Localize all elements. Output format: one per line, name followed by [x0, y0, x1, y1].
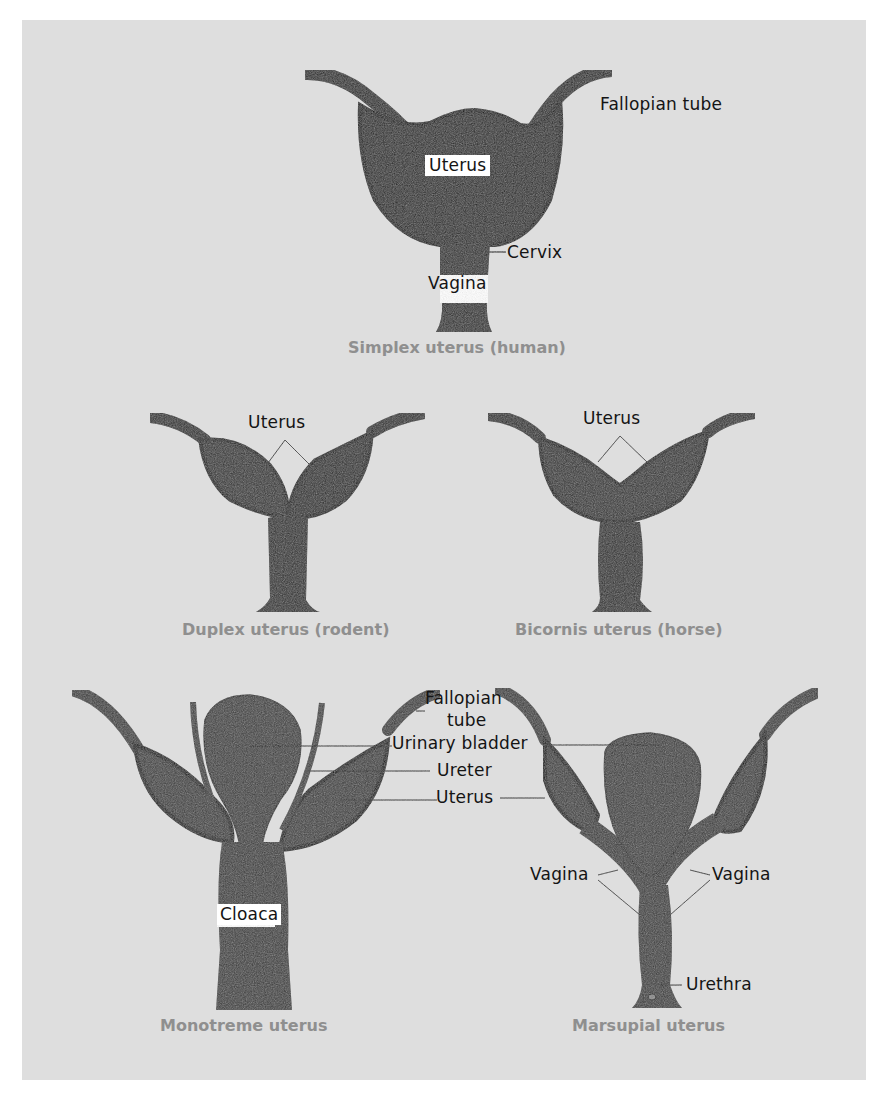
- label-cervix: Cervix: [507, 244, 562, 261]
- label-uterus-simplex: Uterus: [425, 155, 490, 176]
- label-fallopian-line2: tube: [447, 712, 487, 729]
- label-vagina-simplex: Vagina: [428, 275, 487, 292]
- duplex-uterus-drawing: [150, 413, 425, 612]
- label-uterus-duplex: Uterus: [248, 414, 305, 431]
- monotreme-uterus-drawing: [72, 690, 440, 1010]
- label-urethra: Urethra: [686, 976, 752, 993]
- label-ureter: Ureter: [437, 762, 492, 779]
- caption-duplex: Duplex uterus (rodent): [182, 622, 389, 638]
- label-vagina-right: Vagina: [712, 866, 771, 883]
- label-uterus-shared: Uterus: [436, 789, 493, 806]
- caption-monotreme: Monotreme uterus: [160, 1018, 327, 1034]
- caption-marsupial: Marsupial uterus: [572, 1018, 725, 1034]
- caption-bicornis: Bicornis uterus (horse): [515, 622, 723, 638]
- label-fallopian-tube: Fallopian tube: [600, 96, 722, 113]
- bicornis-uterus-drawing: [488, 413, 755, 612]
- label-fallopian-line1: Fallopian: [425, 690, 502, 707]
- marsupial-uterus-drawing: [495, 688, 818, 1008]
- label-urinary-bladder: Urinary bladder: [392, 735, 528, 752]
- caption-simplex: Simplex uterus (human): [348, 340, 566, 356]
- label-vagina-left: Vagina: [530, 866, 589, 883]
- label-uterus-bicornis: Uterus: [583, 410, 640, 427]
- label-cloaca: Cloaca: [217, 904, 281, 925]
